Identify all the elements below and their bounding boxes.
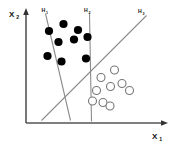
figure-canvas: X 2 X 1 H 1 H 2 H 3 bbox=[0, 0, 177, 143]
x-axis-label-base: X bbox=[152, 132, 158, 141]
y-axis bbox=[23, 8, 29, 123]
hyperplane-h3-label-base: H bbox=[138, 8, 142, 14]
hyperplane-h2-label: H 2 bbox=[84, 7, 91, 15]
data-point-open bbox=[118, 80, 126, 88]
data-point-open bbox=[89, 97, 97, 105]
data-point-filled bbox=[54, 38, 62, 46]
filled-point-group bbox=[43, 20, 91, 66]
hyperplane-h1-label: H 1 bbox=[42, 7, 49, 15]
hyperplane-h1-label-subscript: 1 bbox=[46, 11, 48, 15]
data-point-open bbox=[93, 87, 101, 95]
y-axis-arrowhead bbox=[23, 8, 29, 15]
hyperplane-h3-label-subscript: 3 bbox=[143, 12, 145, 16]
x-axis-label: X 1 bbox=[152, 132, 162, 142]
scatter-figure: X 2 X 1 H 1 H 2 H 3 bbox=[0, 0, 177, 143]
y-axis-label: X 2 bbox=[9, 10, 19, 20]
data-point-filled bbox=[83, 33, 91, 41]
data-point-open bbox=[107, 83, 115, 91]
hyperplane-h2-label-base: H bbox=[84, 7, 88, 13]
x-axis-label-subscript: 1 bbox=[159, 136, 162, 142]
data-point-open bbox=[111, 66, 119, 74]
data-point-open bbox=[126, 87, 134, 95]
data-point-filled bbox=[59, 20, 67, 28]
open-point-group bbox=[89, 66, 134, 110]
hyperplane-h3-label: H 3 bbox=[138, 8, 145, 16]
x-axis-arrowhead bbox=[161, 120, 168, 126]
data-point-open bbox=[97, 74, 105, 82]
hyperplane-h2-label-subscript: 2 bbox=[89, 11, 91, 15]
data-point-filled bbox=[45, 27, 53, 35]
y-axis-label-base: X bbox=[9, 10, 15, 19]
data-point-filled bbox=[43, 52, 51, 60]
hyperplane-h1-label-base: H bbox=[42, 7, 46, 13]
data-point-filled bbox=[70, 35, 78, 43]
data-point-filled bbox=[74, 26, 82, 34]
x-axis bbox=[26, 120, 168, 126]
data-point-filled bbox=[82, 54, 90, 62]
data-point-open bbox=[106, 102, 114, 110]
data-point-filled bbox=[57, 57, 65, 65]
y-axis-label-subscript: 2 bbox=[16, 14, 19, 20]
